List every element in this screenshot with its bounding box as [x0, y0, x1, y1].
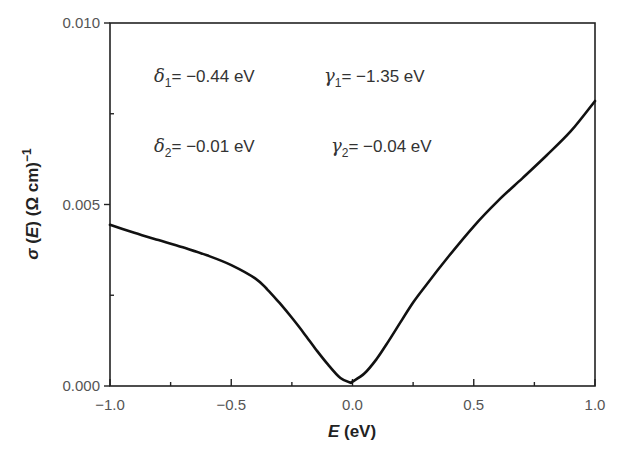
parameter-annotation: γ1= −1.35 eV — [324, 65, 425, 90]
annotations: δ1= −0.44 eVγ1= −1.35 eVδ2= −0.01 eVγ2= … — [154, 65, 432, 160]
x-tick-label: 0.0 — [342, 396, 363, 413]
y-axis-label-sigma: σ — [23, 248, 42, 260]
y-tick-label: 0.005 — [62, 196, 100, 213]
y-axis-label: σ (E) (Ω cm)−1 — [20, 148, 42, 260]
x-tick-label: 0.5 — [463, 396, 484, 413]
x-tick-label: −0.5 — [216, 396, 246, 413]
parameter-annotation: δ1= −0.44 eV — [154, 65, 255, 90]
parameter-annotation: δ2= −0.01 eV — [154, 135, 255, 160]
y-tick-label: 0.000 — [62, 377, 100, 394]
y-axis-label-unit: (Ω cm) — [23, 162, 42, 216]
chart: −1.0−0.50.00.51.00.0000.0050.010 δ1= −0.… — [0, 0, 618, 467]
x-axis-label-var: E — [328, 422, 340, 441]
y-axis-label-e: E — [23, 226, 42, 238]
x-axis-label-unit: (eV) — [339, 422, 376, 441]
parameter-annotation: γ2= −0.04 eV — [331, 135, 432, 160]
x-tick-label: −1.0 — [95, 396, 125, 413]
y-tick-label: 0.010 — [62, 14, 100, 31]
x-tick-label: 1.0 — [585, 396, 606, 413]
x-axis-label: E (eV) — [328, 422, 376, 441]
svg-text:σ (E) (Ω cm)−1: σ (E) (Ω cm)−1 — [20, 148, 42, 260]
y-axis-label-exp: −1 — [20, 148, 34, 162]
